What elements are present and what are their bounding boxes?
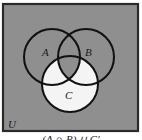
- universe-label: U: [8, 118, 17, 130]
- set-c-label: C: [65, 89, 73, 101]
- set-b-label: B: [85, 46, 92, 58]
- caption: (A ∩ B) ∪ C′: [42, 133, 100, 140]
- set-a-label: A: [41, 46, 49, 58]
- venn-diagram: A B C U (A ∩ B) ∪ C′: [0, 0, 142, 140]
